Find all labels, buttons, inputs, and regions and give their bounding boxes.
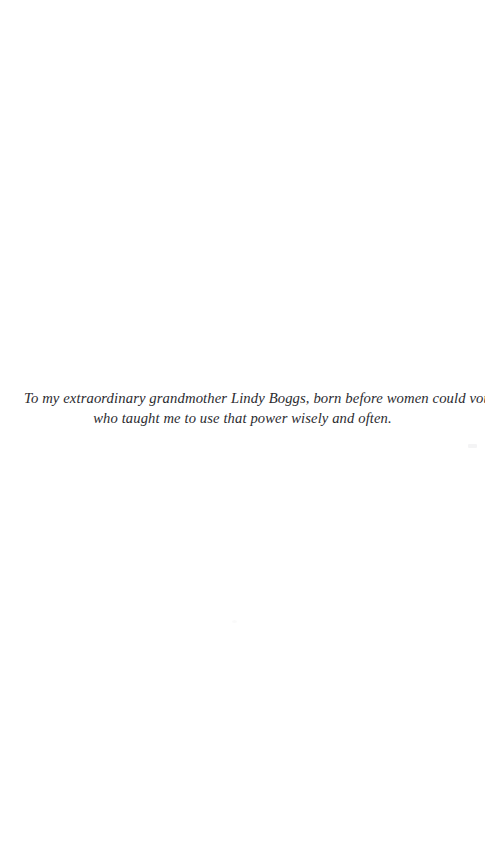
scan-artifact-right-margin — [468, 444, 477, 448]
dedication-line-2: who taught me to use that power wisely a… — [24, 408, 461, 428]
dedication-block: To my extraordinary grandmother Lindy Bo… — [0, 388, 485, 428]
dedication-line-1: To my extraordinary grandmother Lindy Bo… — [24, 388, 461, 408]
scan-artifact-lower-center — [232, 620, 237, 623]
book-page: To my extraordinary grandmother Lindy Bo… — [0, 0, 485, 861]
